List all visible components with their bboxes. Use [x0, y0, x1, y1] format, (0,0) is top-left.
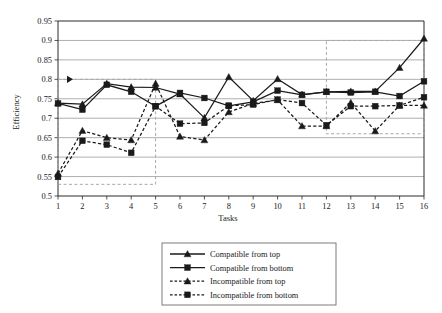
x-tick-label: 11	[298, 202, 306, 211]
data-point-marker	[274, 75, 281, 81]
data-point-marker	[250, 102, 256, 108]
data-point-marker	[104, 82, 110, 88]
y-tick-label: 0.7	[42, 114, 52, 123]
data-point-marker	[177, 133, 184, 139]
data-point-marker	[226, 103, 232, 109]
series-2	[55, 80, 428, 176]
x-tick-label: 4	[129, 202, 134, 211]
legend-item-label: Compatible from top	[210, 250, 280, 259]
data-point-marker	[299, 100, 305, 106]
data-point-marker	[324, 122, 330, 128]
x-tick-label: 5	[154, 202, 158, 211]
efficiency-line-chart: Efficiency 0.50.550.60.650.70.750.80.850…	[0, 0, 442, 313]
legend-item-label: Incompatible from bottom	[210, 291, 299, 300]
legend-item-label: Incompatible from top	[210, 277, 285, 286]
highlight-box-left	[58, 79, 156, 184]
y-axis-ticks: 0.50.550.60.650.70.750.80.850.90.95	[37, 17, 58, 201]
data-point-marker	[55, 101, 61, 107]
legend-item-label: Compatible from bottom	[210, 264, 294, 273]
x-tick-label: 10	[273, 202, 281, 211]
data-point-marker	[55, 174, 61, 180]
annotation-boxes	[58, 40, 424, 184]
y-tick-label: 0.75	[37, 95, 52, 104]
annotation-arrow-icon	[67, 76, 73, 83]
series-line	[58, 39, 424, 118]
x-tick-label: 12	[322, 202, 330, 211]
data-point-marker	[421, 78, 427, 84]
y-tick-label: 0.9	[42, 36, 52, 45]
x-tick-label: 2	[80, 202, 84, 211]
y-tick-label: 0.8	[42, 75, 52, 84]
x-tick-label: 9	[251, 202, 255, 211]
legend-marker-icon	[185, 292, 191, 298]
data-point-marker	[177, 121, 183, 127]
x-tick-label: 15	[395, 202, 403, 211]
data-point-marker	[80, 107, 86, 113]
data-point-marker	[372, 89, 378, 95]
data-point-marker	[275, 88, 281, 94]
x-tick-label: 1	[56, 202, 60, 211]
x-axis-ticks: 12345678910111213141516	[56, 196, 428, 211]
data-point-marker	[152, 80, 159, 86]
data-point-marker	[372, 103, 378, 109]
x-tick-label: 8	[227, 202, 231, 211]
y-axis-title: Efficiency	[11, 93, 21, 129]
y-tick-label: 0.6	[42, 153, 52, 162]
y-tick-label: 0.85	[37, 56, 52, 65]
chart-canvas: Efficiency 0.50.550.60.650.70.750.80.850…	[0, 0, 442, 313]
gridlines	[58, 40, 424, 176]
data-point-marker	[348, 103, 354, 109]
data-point-marker	[80, 138, 86, 144]
data-point-marker	[202, 95, 208, 101]
data-point-marker	[128, 150, 134, 156]
data-point-marker	[128, 89, 134, 95]
chart-legend: Compatible from topCompatible from botto…	[162, 243, 336, 305]
data-point-marker	[202, 120, 208, 126]
data-point-marker	[348, 90, 354, 96]
series-line	[58, 97, 424, 177]
data-point-marker	[324, 89, 330, 95]
y-tick-label: 0.65	[37, 134, 52, 143]
data-point-marker	[299, 92, 305, 98]
x-tick-label: 14	[371, 202, 380, 211]
highlight-box-right	[326, 40, 424, 133]
legend-marker-icon	[185, 265, 191, 271]
x-tick-label: 13	[347, 202, 355, 211]
data-point-marker	[104, 142, 110, 148]
data-point-marker	[153, 103, 159, 109]
data-point-marker	[397, 102, 403, 108]
x-axis-title: Tasks	[218, 213, 238, 223]
data-point-marker	[79, 127, 86, 133]
data-point-marker	[421, 35, 428, 41]
x-tick-label: 6	[178, 202, 182, 211]
y-tick-label: 0.5	[42, 192, 52, 201]
data-point-marker	[421, 94, 427, 100]
y-tick-label: 0.95	[37, 17, 52, 26]
y-axis-title-group: Efficiency	[11, 93, 21, 129]
x-tick-label: 16	[420, 202, 428, 211]
data-point-marker	[177, 90, 183, 96]
x-tick-label: 3	[105, 202, 109, 211]
data-point-marker	[225, 74, 232, 80]
series-line	[58, 84, 424, 174]
y-tick-label: 0.55	[37, 173, 52, 182]
data-point-marker	[275, 97, 281, 103]
data-series-layer	[55, 35, 428, 180]
data-point-marker	[397, 93, 403, 99]
x-tick-label: 7	[202, 202, 206, 211]
